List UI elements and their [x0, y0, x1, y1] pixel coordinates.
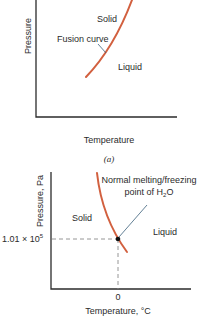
panel-b-liquid-label: Liquid: [153, 227, 177, 237]
panel-b-y-tick-label: 1.01 × 105: [2, 233, 44, 244]
panel-b-solid-label: Solid: [72, 213, 92, 223]
panel-a-caption: (a): [104, 154, 115, 164]
panel-b-y-axis-label: Pressure, Pa: [35, 175, 45, 227]
panel-b-annotation-leader: [119, 205, 147, 237]
panel-a-liquid-label: Liquid: [118, 62, 142, 72]
panel-b-melting-point-marker: [116, 237, 121, 242]
phase-diagrams: Pressure Fusion curve Solid Liquid Tempe…: [0, 0, 208, 316]
panel-b-x-axis-label: Temperature, °C: [85, 306, 151, 316]
panel-b-annotation-line1: Normal melting/freezing: [101, 175, 196, 185]
panel-a-solid-label: Solid: [97, 14, 117, 24]
panel-b-annotation-line2: point of H2O: [125, 187, 174, 198]
panel-b-x-tick-label: 0: [115, 292, 120, 302]
panel-a: Pressure Fusion curve Solid Liquid Tempe…: [23, 0, 177, 164]
panel-a-annotation-label: Fusion curve: [57, 34, 109, 44]
panel-a-annotation-leader: [98, 44, 106, 53]
panel-b: Pressure, Pa Normal melting/freezing poi…: [2, 172, 197, 316]
panel-a-x-axis-label: Temperature: [84, 135, 135, 145]
panel-a-y-axis-label: Pressure: [23, 18, 33, 54]
